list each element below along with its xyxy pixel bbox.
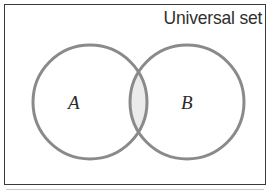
venn-diagram-figure: Universal set A B (0, 0, 273, 196)
venn-canvas (0, 0, 273, 196)
universal-set-label: Universal set (163, 8, 262, 28)
scan-artifact-line (6, 189, 264, 190)
set-a-label: A (68, 93, 80, 112)
set-b-label: B (181, 93, 193, 112)
